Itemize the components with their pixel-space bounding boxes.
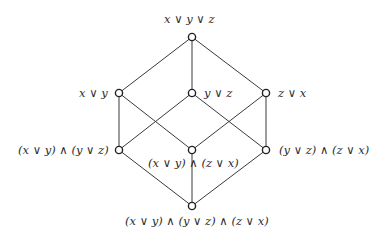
label-z-or-x: z ∨ x <box>278 86 306 100</box>
label-x-or-y: x ∨ y <box>79 86 108 100</box>
label-bottom: (x ∨ y) ∧ (y ∨ z) ∧ (z ∨ x) <box>125 214 269 228</box>
label-y-or-z: y ∨ z <box>204 86 232 100</box>
edges-group <box>119 37 266 206</box>
node-bottom <box>188 202 195 209</box>
label-xy-and-yz: (x ∨ y) ∧ (y ∨ z) <box>18 143 109 157</box>
node-zx <box>262 89 269 96</box>
edge-top-zx <box>192 37 266 93</box>
node-xy_zx <box>188 146 195 153</box>
label-top: x ∨ y ∨ z <box>164 12 215 26</box>
edge-top-xy <box>119 37 192 93</box>
node-xy <box>115 89 122 96</box>
label-yz-and-zx: (y ∨ z) ∧ (z ∨ x) <box>279 143 369 157</box>
node-top <box>188 33 195 40</box>
node-yz_zx <box>262 146 269 153</box>
label-xy-and-zx: (x ∨ y) ∧ (z ∨ x) <box>148 156 239 170</box>
hasse-diagram: x ∨ y ∨ z x ∨ y y ∨ z z ∨ x (x ∨ y) ∧ (y… <box>0 0 388 244</box>
node-yz <box>188 89 195 96</box>
node-xy_yz <box>115 146 122 153</box>
lattice-graph <box>0 0 388 244</box>
